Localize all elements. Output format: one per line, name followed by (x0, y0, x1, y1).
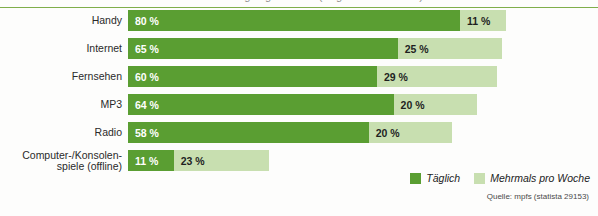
bar-segment-mehrmals: 20 % (369, 122, 452, 143)
bar-value-label: 58 % (135, 127, 159, 139)
source-note: Quelle: mpfs (statista 29153) (0, 192, 598, 201)
bar-segment-taeglich: 65 % (128, 38, 398, 59)
chart-row: Computer-/Konsolen- spiele (offline)11 %… (0, 150, 598, 171)
category-label-2: Internet (6, 43, 128, 55)
legend-swatch-icon-mehrmals-pro-woche (474, 173, 485, 184)
legend-label-taeglich: Täglich (426, 172, 460, 184)
stacked-bar: 80 %11 % (128, 10, 506, 31)
bar-value-label: 11 % (467, 15, 490, 27)
bar-segment-taeglich: 64 % (128, 94, 394, 115)
stacked-bar: 11 %23 % (128, 150, 269, 171)
category-label-3: Fernsehen (6, 71, 128, 83)
bar-segment-mehrmals: 29 % (377, 66, 497, 87)
bar-segment-mehrmals: 25 % (398, 38, 502, 59)
legend-item-mehrmals-pro-woche: Mehrmals pro Woche (474, 172, 590, 184)
chart-title-text: Mediennutzung Jugendlicher (Angaben in P… (0, 0, 598, 2)
chart-container: Mediennutzung Jugendlicher (Angaben in P… (0, 0, 598, 216)
category-label-6: Computer-/Konsolen- spiele (offline) (6, 149, 128, 172)
chart-row: Radio58 %20 % (0, 122, 598, 143)
stacked-bar: 58 %20 % (128, 122, 452, 143)
bar-value-label: 11 % (135, 155, 158, 167)
bar-segment-taeglich: 60 % (128, 66, 377, 87)
legend-label-mehrmals-pro-woche: Mehrmals pro Woche (490, 172, 590, 184)
bar-value-label: 20 % (376, 127, 400, 139)
bar-value-label: 65 % (135, 43, 159, 55)
stacked-bar: 65 %25 % (128, 38, 502, 59)
chart-row: MP364 %20 % (0, 94, 598, 115)
chart-row: Fernsehen60 %29 % (0, 66, 598, 87)
chart-row: Internet65 %25 % (0, 38, 598, 59)
bar-segment-mehrmals: 23 % (174, 150, 269, 171)
legend-item-taeglich: Täglich (410, 172, 460, 184)
bar-value-label: 80 % (135, 15, 159, 27)
bar-value-label: 25 % (405, 43, 429, 55)
bar-value-label: 60 % (135, 71, 159, 83)
bar-segment-mehrmals: 11 % (460, 10, 506, 31)
stacked-bar: 60 %29 % (128, 66, 497, 87)
bar-value-label: 29 % (384, 71, 408, 83)
category-label-4: MP3 (6, 99, 128, 111)
legend-swatch-icon-taeglich (410, 173, 421, 184)
bar-value-label: 64 % (135, 99, 159, 111)
bar-value-label: 20 % (401, 99, 425, 111)
chart-legend: Täglich Mehrmals pro Woche (0, 172, 598, 184)
bar-segment-taeglich: 11 % (128, 150, 174, 171)
chart-title-clipped: Mediennutzung Jugendlicher (Angaben in P… (0, 0, 598, 7)
category-label-1: Handy (6, 15, 128, 27)
bar-segment-taeglich: 58 % (128, 122, 369, 143)
category-label-5: Radio (6, 127, 128, 139)
stacked-bar: 64 %20 % (128, 94, 477, 115)
bar-segment-mehrmals: 20 % (394, 94, 477, 115)
bar-value-label: 23 % (181, 155, 205, 167)
bar-segment-taeglich: 80 % (128, 10, 460, 31)
chart-row: Handy80 %11 % (0, 10, 598, 31)
bars-plot-area: Handy80 %11 %Internet65 %25 %Fernsehen60… (0, 8, 598, 168)
